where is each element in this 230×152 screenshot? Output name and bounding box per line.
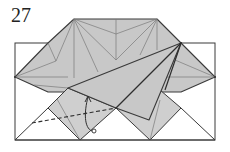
lower-right-diagonal [181, 108, 215, 140]
lower-left-diagonal [15, 108, 48, 140]
left-tip-dot [14, 76, 16, 78]
fold-arrow-tail-loop [92, 129, 96, 133]
origami-diagram [0, 0, 230, 152]
right-tip-dot [214, 76, 216, 78]
shoulder-dot [180, 42, 182, 44]
